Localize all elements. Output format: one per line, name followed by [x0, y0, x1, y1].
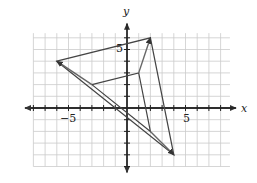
y-axis-label: y	[122, 5, 130, 18]
coordinate-plane: x y −5 5 5	[0, 0, 257, 183]
x-tick-label-5: 5	[183, 112, 190, 125]
x-tick-label-neg5: −5	[60, 112, 76, 125]
x-axis-label: x	[241, 102, 248, 115]
dilation-arrow	[139, 38, 151, 73]
small-triangle	[92, 73, 150, 131]
y-tick-label-5: 5	[116, 42, 123, 55]
grid	[33, 33, 230, 166]
